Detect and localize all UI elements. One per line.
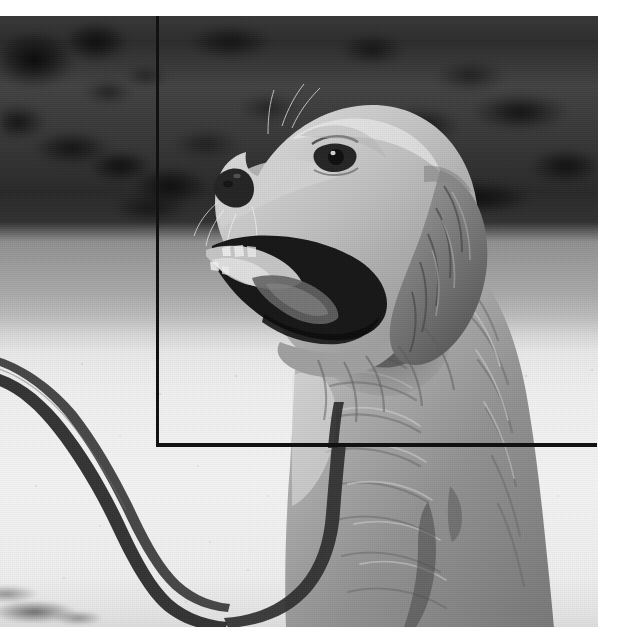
leash-strap-lower bbox=[0, 372, 228, 627]
screenshot-canvas bbox=[0, 0, 625, 643]
leash-ground-run bbox=[224, 444, 346, 627]
photograph bbox=[0, 16, 598, 627]
leash-to-collar bbox=[328, 402, 344, 448]
leash bbox=[0, 16, 598, 627]
